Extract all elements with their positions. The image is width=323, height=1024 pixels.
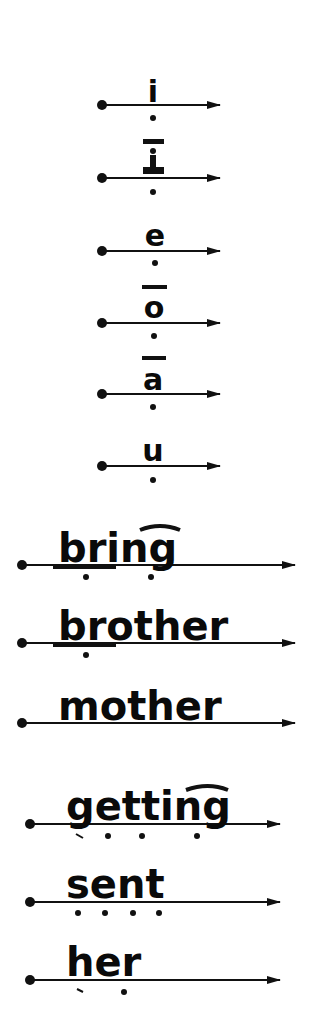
letter-label: u <box>142 433 163 468</box>
sound-dot-icon <box>83 574 89 580</box>
reading-row-bring: bring <box>17 525 295 580</box>
worksheet-canvas: i e o a u <box>0 0 323 1024</box>
sound-dot-icon <box>151 333 157 339</box>
word-label: her <box>66 939 142 985</box>
letter-stem <box>150 155 156 167</box>
reading-row-her: her <box>25 939 280 995</box>
sound-dot-icon <box>83 652 89 658</box>
sound-dot-icon <box>75 910 81 916</box>
letter-label: o <box>144 290 165 325</box>
sound-dot-icon <box>148 574 154 580</box>
reading-row-i-long <box>97 139 220 195</box>
word-label: getting <box>66 783 231 829</box>
sound-dot-icon <box>152 260 158 266</box>
macron-bar-icon <box>143 139 164 144</box>
sound-dot-icon <box>150 404 156 410</box>
letter-dot-icon <box>150 148 156 154</box>
sound-dot-icon <box>121 989 127 995</box>
sound-dot-icon <box>130 910 136 916</box>
reading-row-i: i <box>97 74 220 121</box>
macron-bar-icon <box>142 285 167 289</box>
sound-dot-icon <box>150 477 156 483</box>
macron-bar-icon <box>142 356 166 360</box>
sound-dot-icon <box>102 910 108 916</box>
sound-dot-icon <box>156 910 162 916</box>
reading-row-e: e <box>97 218 220 266</box>
reading-row-u: u <box>97 433 220 483</box>
hook-mark-icon <box>76 834 83 838</box>
sound-dot-icon <box>139 833 145 839</box>
word-label: mother <box>58 683 222 729</box>
sound-dot-icon <box>150 115 156 121</box>
letter-label: e <box>145 218 165 253</box>
sound-dot-icon <box>105 833 111 839</box>
reading-row-sent: sent <box>25 861 280 916</box>
word-label: sent <box>66 861 165 907</box>
hook-mark-icon <box>77 989 83 992</box>
reading-row-brother: brother <box>17 603 295 658</box>
blend-underline <box>53 642 116 647</box>
letter-label: i <box>148 74 158 109</box>
reading-row-mother: mother <box>17 683 295 729</box>
sound-dot-icon <box>150 189 156 195</box>
reading-row-a-macron: a <box>97 356 220 410</box>
blend-underline <box>53 564 116 569</box>
letter-base <box>143 167 164 174</box>
sound-dot-icon <box>194 833 200 839</box>
letter-label: a <box>143 362 163 397</box>
reading-row-o-macron: o <box>97 285 220 339</box>
reading-row-getting: getting <box>25 783 280 839</box>
